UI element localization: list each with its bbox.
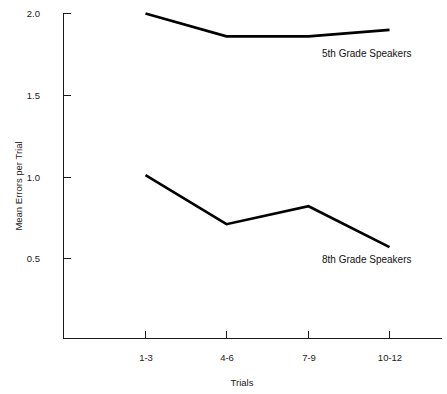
y-tick-label-1-5: 1.5 bbox=[27, 90, 40, 101]
y-tick-labels: 2.0 1.5 1.0 0.5 bbox=[27, 8, 40, 264]
x-tick-group bbox=[146, 331, 390, 339]
y-tick-label-2-0: 2.0 bbox=[27, 8, 40, 19]
y-axis-title: Mean Errors per Trial bbox=[13, 141, 24, 230]
series-label-8th-grade: 8th Grade Speakers bbox=[322, 254, 412, 265]
chart-canvas: 2.0 1.5 1.0 0.5 1-3 4-6 7-9 10-12 Trials… bbox=[0, 0, 447, 394]
series-line-5th-grade bbox=[146, 14, 390, 37]
y-tick-group bbox=[64, 14, 72, 259]
x-tick-label-1-3: 1-3 bbox=[139, 352, 153, 363]
series-line-8th-grade bbox=[146, 175, 390, 247]
y-tick-label-1-0: 1.0 bbox=[27, 172, 40, 183]
axis-group bbox=[64, 13, 443, 339]
x-tick-label-10-12: 10-12 bbox=[378, 352, 402, 363]
series-label-5th-grade: 5th Grade Speakers bbox=[322, 48, 412, 59]
line-chart: 2.0 1.5 1.0 0.5 1-3 4-6 7-9 10-12 Trials… bbox=[0, 0, 447, 394]
x-tick-labels: 1-3 4-6 7-9 10-12 bbox=[139, 352, 402, 363]
x-tick-label-7-9: 7-9 bbox=[302, 352, 316, 363]
x-tick-label-4-6: 4-6 bbox=[220, 352, 234, 363]
y-tick-label-0-5: 0.5 bbox=[27, 253, 40, 264]
x-axis-title: Trials bbox=[231, 377, 254, 388]
